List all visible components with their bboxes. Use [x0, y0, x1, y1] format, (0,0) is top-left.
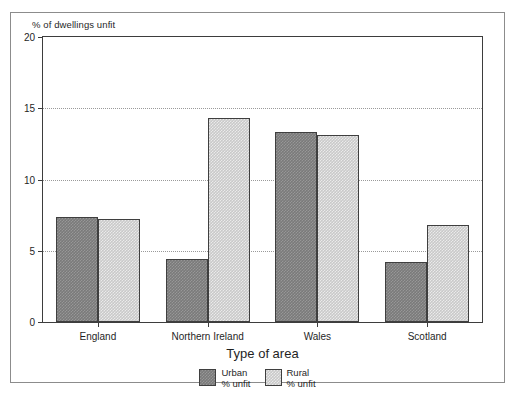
chart-legend: Urban % unfit Rural % unfit — [11, 368, 504, 389]
legend-swatch-rural-icon — [265, 369, 282, 386]
y-axis-tick — [38, 37, 43, 38]
bar-urban-scotland[interactable] — [385, 262, 427, 322]
chart-figure: % of dwellings unfit 05101520EnglandNort… — [10, 12, 505, 383]
bar-urban-england[interactable] — [56, 217, 98, 322]
x-axis-category-label: Scotland — [408, 331, 447, 342]
y-axis-tick-label: 0 — [29, 317, 35, 328]
bar-rural-england[interactable] — [98, 219, 140, 322]
legend-label-rural-line2: % unfit — [287, 378, 316, 389]
bar-urban-wales[interactable] — [275, 132, 317, 322]
y-axis-tick — [38, 251, 43, 252]
x-axis-title: Type of area — [42, 346, 483, 361]
x-axis-tick — [208, 322, 209, 327]
bar-urban-northern-ireland[interactable] — [166, 259, 208, 322]
y-axis-tick-label: 5 — [29, 245, 35, 256]
x-axis-category-label: Northern Ireland — [171, 331, 243, 342]
bar-rural-northern-ireland[interactable] — [208, 118, 250, 322]
y-axis-tick — [38, 180, 43, 181]
x-axis-tick — [427, 322, 428, 327]
bar-rural-wales[interactable] — [317, 135, 359, 322]
legend-item-rural[interactable]: Rural % unfit — [265, 368, 316, 389]
y-axis-tick-label: 20 — [24, 32, 35, 43]
legend-label-rural: Rural % unfit — [287, 368, 316, 389]
x-axis-category-label: England — [80, 331, 117, 342]
legend-label-urban-line2: % unfit — [221, 378, 250, 389]
legend-label-rural-line1: Rural — [287, 367, 310, 378]
x-axis-tick — [317, 322, 318, 327]
legend-label-urban: Urban % unfit — [221, 368, 250, 389]
bar-rural-scotland[interactable] — [427, 225, 469, 322]
legend-item-urban[interactable]: Urban % unfit — [199, 368, 250, 389]
gridline — [43, 108, 482, 109]
legend-swatch-urban-icon — [199, 369, 216, 386]
plot-area: 05101520EnglandNorthern IrelandWalesScot… — [42, 36, 483, 323]
y-axis-tick — [38, 322, 43, 323]
x-axis-tick — [98, 322, 99, 327]
x-axis-category-label: Wales — [304, 331, 331, 342]
y-axis-tick-label: 10 — [24, 174, 35, 185]
gridline — [43, 180, 482, 181]
y-axis-tick-label: 15 — [24, 103, 35, 114]
y-axis-label: % of dwellings unfit — [32, 19, 115, 30]
y-axis-tick — [38, 108, 43, 109]
legend-label-urban-line1: Urban — [221, 367, 247, 378]
